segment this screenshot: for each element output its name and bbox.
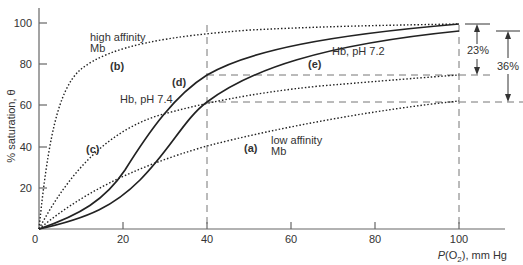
- curve-e-hb-ph-7-2: [39, 31, 459, 229]
- label-b-letter: (b): [110, 60, 124, 72]
- label-e: Hb, pH 7.2: [332, 45, 385, 57]
- y-tick-60: 60: [20, 99, 32, 111]
- label-e-letter: (e): [308, 58, 322, 70]
- y-tick-20: 20: [20, 182, 32, 194]
- curve-annotations: high affinity Mb (b) (d) Hb, pH 7.4 (e) …: [86, 31, 385, 157]
- oxygen-binding-chart: 100 80 60 40 20 0 20 40 60 80 100 % satu…: [0, 0, 523, 265]
- x-tick-80: 80: [369, 233, 381, 245]
- pct-36-label: 36%: [497, 60, 519, 72]
- x-tick-labels: 0 20 40 60 80 100: [32, 233, 468, 245]
- curve-b-high-affinity-mb: [39, 24, 459, 229]
- y-tick-100: 100: [14, 17, 32, 29]
- label-b-line2: Mb: [90, 42, 105, 54]
- x-tick-60: 60: [285, 233, 297, 245]
- x-tick-100: 100: [450, 233, 468, 245]
- x-tick-40: 40: [201, 233, 213, 245]
- pct-23-label: 23%: [467, 44, 489, 56]
- label-d: Hb, pH 7.4: [120, 93, 173, 105]
- label-d-letter: (d): [172, 76, 186, 88]
- y-axis-title: % saturation, θ: [5, 89, 17, 162]
- x-axis-title: P(O2), mm Hg: [438, 249, 507, 264]
- y-tick-80: 80: [20, 58, 32, 70]
- x-tick-20: 20: [117, 233, 129, 245]
- label-c-letter: (c): [86, 143, 100, 155]
- x-tick-0: 0: [32, 233, 38, 245]
- curve-d-hb-ph-7-4: [39, 24, 459, 229]
- curve-a-low-affinity-mb: [39, 101, 459, 229]
- label-a-line2: Mb: [271, 145, 286, 157]
- y-tick-40: 40: [20, 141, 32, 153]
- label-a-letter: (a): [244, 142, 258, 154]
